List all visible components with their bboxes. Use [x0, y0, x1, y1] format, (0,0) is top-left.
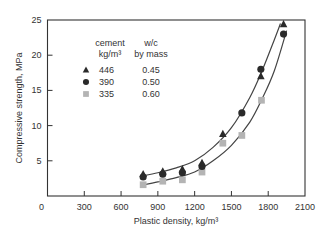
x-tick-label: 1200 — [185, 202, 205, 212]
x-tick-label: 1800 — [258, 202, 278, 212]
legend-circle-icon — [83, 79, 89, 85]
triangle-marker — [280, 20, 288, 27]
y-tick-label: 25 — [31, 15, 41, 25]
y-tick-label: 20 — [31, 50, 41, 60]
square-marker — [258, 97, 265, 104]
legend-cement-value: 335 — [99, 89, 114, 99]
square-marker — [179, 176, 186, 183]
chart-canvas: 03006009001200150018002100510152025 ceme… — [0, 0, 329, 238]
circle-marker — [257, 66, 264, 73]
circle-marker — [280, 31, 287, 38]
y-tick-label: 15 — [31, 85, 41, 95]
triangle-marker — [219, 130, 227, 137]
x-tick-label: 2100 — [295, 202, 315, 212]
square-marker — [219, 140, 226, 147]
data-points — [139, 20, 287, 188]
legend-wc-value: 0.45 — [142, 65, 160, 75]
x-tick-label: 1500 — [221, 202, 241, 212]
circle-marker — [238, 109, 245, 116]
triangle-marker — [257, 72, 265, 79]
x-axis-label: Plastic density, kg/m³ — [134, 216, 218, 226]
square-marker — [238, 132, 245, 139]
legend-square-icon — [83, 91, 89, 97]
legend-cement-value: 390 — [99, 77, 114, 87]
legend-wc-value: 0.60 — [142, 89, 160, 99]
legend-cement-value: 446 — [99, 65, 114, 75]
y-tick-label: 10 — [31, 121, 41, 131]
legend-triangle-icon — [83, 66, 89, 72]
legend-header-wc: w/c — [143, 38, 158, 48]
legend-header-bymass: by mass — [134, 49, 168, 59]
triangle-marker — [139, 170, 147, 177]
x-tick-label: 600 — [114, 202, 129, 212]
x-tick-label: 300 — [77, 202, 92, 212]
x-tick-label: 900 — [150, 202, 165, 212]
y-tick-label: 5 — [36, 156, 41, 166]
plot-frame — [48, 20, 306, 196]
square-marker — [159, 178, 166, 185]
legend-header-unit: kg/m³ — [99, 49, 122, 59]
legend: cementkg/m³w/cby mass4460.453900.503350.… — [83, 38, 168, 99]
legend-wc-value: 0.50 — [142, 77, 160, 87]
y-axis-label: Compressive strength, MPa — [14, 52, 24, 163]
x-tick-label: 0 — [39, 202, 44, 212]
triangle-marker — [198, 159, 206, 166]
legend-header-cement: cement — [95, 38, 125, 48]
fit-curves — [141, 24, 287, 186]
square-marker — [140, 181, 147, 188]
